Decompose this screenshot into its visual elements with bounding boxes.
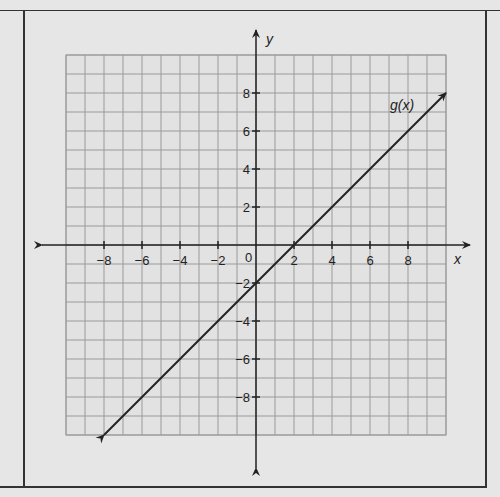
y-tick-label: 2 xyxy=(243,200,250,215)
x-tick-label: 6 xyxy=(366,253,373,268)
x-tick-label: 8 xyxy=(404,253,411,268)
y-tick-label: −8 xyxy=(235,390,250,405)
y-tick-label: −6 xyxy=(235,352,250,367)
x-tick-label: −2 xyxy=(211,253,226,268)
y-tick-label: 8 xyxy=(243,86,250,101)
y-tick-label: 4 xyxy=(243,162,250,177)
x-tick-label: 2 xyxy=(290,253,297,268)
coordinate-plane: −8−6−4−224688642−2−4−6−8 g(x) x y 0 xyxy=(0,0,500,497)
origin-label: 0 xyxy=(245,250,252,265)
y-tick-label: −2 xyxy=(235,276,250,291)
x-axis-label: x xyxy=(453,251,462,267)
line-label-g-of-x: g(x) xyxy=(390,97,414,113)
y-tick-label: −4 xyxy=(235,314,250,329)
y-tick-label: 6 xyxy=(243,124,250,139)
x-tick-label: −6 xyxy=(135,253,150,268)
y-axis-label: y xyxy=(265,31,274,47)
x-tick-label: −8 xyxy=(97,253,112,268)
x-tick-label: −4 xyxy=(173,253,188,268)
x-tick-label: 4 xyxy=(328,253,335,268)
